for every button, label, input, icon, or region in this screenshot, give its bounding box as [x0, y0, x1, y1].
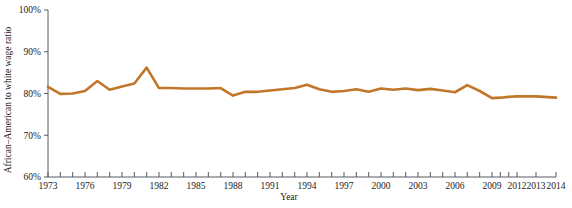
x-axis-ticks [48, 172, 556, 177]
x-tick-label: 1988 [224, 181, 243, 191]
y-tick-label: 70% [24, 131, 42, 141]
x-tick-label: 2012 [508, 181, 527, 191]
x-axis-tick-labels: 1973197619791982198519881991199419972000… [39, 181, 566, 191]
chart-canvas: 100%90%80%70%60% 19731976197919821985198… [0, 0, 572, 208]
y-tick-label: 100% [19, 5, 41, 15]
x-axis-title: Year [280, 192, 298, 202]
x-tick-label: 2013 [527, 181, 546, 191]
x-tick-label: 2006 [446, 181, 465, 191]
y-tick-label: 90% [24, 47, 42, 57]
y-axis: 100%90%80%70%60% [19, 5, 48, 182]
plot-area [48, 68, 556, 98]
x-axis: 1973197619791982198519881991199419972000… [39, 172, 566, 191]
x-tick-label: 1976 [76, 181, 95, 191]
y-axis-title: African–American to white wage ratio [3, 26, 13, 173]
y-axis-tick-labels: 100%90%80%70%60% [19, 5, 41, 182]
x-tick-label: 1973 [39, 181, 58, 191]
x-tick-label: 1982 [150, 181, 169, 191]
x-tick-label: 1979 [113, 181, 132, 191]
y-tick-label: 80% [24, 89, 42, 99]
x-tick-label: 1997 [335, 181, 354, 191]
x-tick-label: 2000 [372, 181, 391, 191]
wage-ratio-line-chart: 100%90%80%70%60% 19731976197919821985198… [0, 0, 572, 208]
x-tick-label: 1985 [187, 181, 206, 191]
x-tick-label: 2003 [409, 181, 428, 191]
x-tick-label: 2014 [547, 181, 566, 191]
x-tick-label: 1994 [298, 181, 317, 191]
y-axis-ticks [44, 10, 48, 177]
x-tick-label: 1991 [261, 181, 280, 191]
x-tick-label: 2009 [483, 181, 502, 191]
wage-ratio-series-line [48, 68, 556, 98]
